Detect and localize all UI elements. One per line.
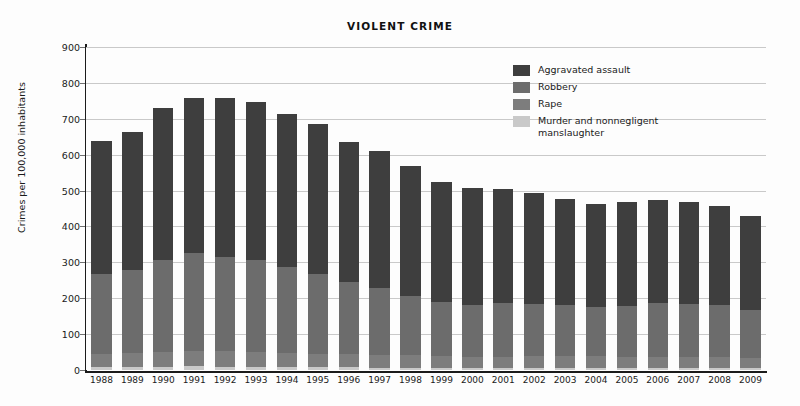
- bar-segment[interactable]: [524, 356, 544, 368]
- bar-segment[interactable]: [184, 351, 204, 366]
- bar-segment[interactable]: [215, 367, 235, 370]
- bar-segment[interactable]: [277, 114, 297, 267]
- bar-segment[interactable]: [740, 216, 760, 310]
- bar-segment[interactable]: [400, 368, 420, 370]
- bar-segment[interactable]: [431, 368, 451, 370]
- bar-segment[interactable]: [153, 367, 173, 370]
- bar-group[interactable]: [555, 199, 575, 370]
- bar-group[interactable]: [431, 182, 451, 370]
- bar-segment[interactable]: [400, 355, 420, 367]
- bar-segment[interactable]: [555, 199, 575, 305]
- bar-segment[interactable]: [277, 353, 297, 367]
- bar-group[interactable]: [679, 202, 699, 370]
- bar-segment[interactable]: [555, 368, 575, 370]
- bar-segment[interactable]: [339, 354, 359, 367]
- bar-segment[interactable]: [91, 367, 111, 370]
- bar-group[interactable]: [462, 188, 482, 370]
- bar-segment[interactable]: [91, 141, 111, 274]
- bar-segment[interactable]: [555, 356, 575, 368]
- bar-segment[interactable]: [555, 305, 575, 356]
- bar-segment[interactable]: [709, 305, 729, 357]
- bar-segment[interactable]: [462, 357, 482, 368]
- bar-group[interactable]: [308, 124, 328, 370]
- bar-segment[interactable]: [679, 202, 699, 304]
- bar-segment[interactable]: [493, 303, 513, 356]
- bar-segment[interactable]: [648, 368, 668, 370]
- bar-segment[interactable]: [308, 354, 328, 367]
- bar-segment[interactable]: [184, 98, 204, 254]
- bar-segment[interactable]: [184, 253, 204, 351]
- bar-segment[interactable]: [524, 304, 544, 356]
- bar-segment[interactable]: [339, 367, 359, 370]
- legend-item[interactable]: Murder and nonnegligent manslaughter: [513, 115, 658, 139]
- bar-segment[interactable]: [524, 368, 544, 370]
- bar-segment[interactable]: [617, 368, 637, 370]
- bar-segment[interactable]: [462, 368, 482, 370]
- bar-segment[interactable]: [246, 260, 266, 352]
- legend-item[interactable]: Rape: [513, 98, 658, 110]
- bar-group[interactable]: [400, 166, 420, 370]
- bar-segment[interactable]: [493, 368, 513, 370]
- bar-group[interactable]: [648, 200, 668, 370]
- bar-segment[interactable]: [431, 182, 451, 302]
- bar-segment[interactable]: [586, 356, 606, 368]
- bar-segment[interactable]: [617, 202, 637, 306]
- bar-segment[interactable]: [122, 132, 142, 270]
- bar-segment[interactable]: [184, 366, 204, 370]
- bar-group[interactable]: [91, 141, 111, 370]
- bar-segment[interactable]: [586, 204, 606, 308]
- bar-segment[interactable]: [122, 353, 142, 367]
- bar-segment[interactable]: [153, 352, 173, 367]
- bar-segment[interactable]: [122, 270, 142, 354]
- bar-group[interactable]: [122, 132, 142, 370]
- bar-segment[interactable]: [462, 305, 482, 357]
- bar-group[interactable]: [184, 98, 204, 370]
- bar-segment[interactable]: [215, 98, 235, 257]
- bar-group[interactable]: [153, 108, 173, 370]
- bar-segment[interactable]: [709, 368, 729, 370]
- bar-segment[interactable]: [617, 306, 637, 356]
- bar-segment[interactable]: [679, 357, 699, 368]
- bar-segment[interactable]: [740, 358, 760, 368]
- bar-segment[interactable]: [617, 357, 637, 368]
- bar-segment[interactable]: [122, 367, 142, 370]
- bar-group[interactable]: [586, 204, 606, 370]
- bar-group[interactable]: [709, 206, 729, 370]
- bar-segment[interactable]: [648, 357, 668, 368]
- bar-segment[interactable]: [400, 166, 420, 296]
- bar-segment[interactable]: [91, 274, 111, 353]
- bar-segment[interactable]: [246, 352, 266, 367]
- bar-group[interactable]: [740, 216, 760, 370]
- bar-group[interactable]: [277, 114, 297, 370]
- bar-segment[interactable]: [153, 108, 173, 260]
- bar-segment[interactable]: [369, 355, 389, 368]
- bar-segment[interactable]: [709, 206, 729, 305]
- bar-segment[interactable]: [215, 351, 235, 366]
- bar-segment[interactable]: [679, 304, 699, 357]
- bar-segment[interactable]: [308, 274, 328, 353]
- bar-segment[interactable]: [431, 356, 451, 368]
- bar-segment[interactable]: [648, 303, 668, 357]
- bar-segment[interactable]: [524, 193, 544, 304]
- legend-item[interactable]: Aggravated assault: [513, 64, 658, 76]
- bar-segment[interactable]: [648, 200, 668, 303]
- bar-segment[interactable]: [400, 296, 420, 355]
- bar-segment[interactable]: [493, 189, 513, 303]
- bar-segment[interactable]: [153, 260, 173, 352]
- bar-segment[interactable]: [339, 142, 359, 282]
- bar-group[interactable]: [339, 142, 359, 370]
- bar-segment[interactable]: [215, 257, 235, 352]
- bar-segment[interactable]: [586, 307, 606, 356]
- bar-group[interactable]: [524, 193, 544, 370]
- bar-segment[interactable]: [709, 357, 729, 368]
- bar-segment[interactable]: [277, 367, 297, 370]
- bar-group[interactable]: [493, 189, 513, 370]
- bar-segment[interactable]: [369, 288, 389, 355]
- bar-segment[interactable]: [246, 102, 266, 260]
- bar-segment[interactable]: [369, 368, 389, 370]
- bar-segment[interactable]: [462, 188, 482, 304]
- bar-segment[interactable]: [740, 368, 760, 370]
- bar-segment[interactable]: [493, 357, 513, 368]
- bar-group[interactable]: [246, 102, 266, 370]
- bar-segment[interactable]: [308, 124, 328, 274]
